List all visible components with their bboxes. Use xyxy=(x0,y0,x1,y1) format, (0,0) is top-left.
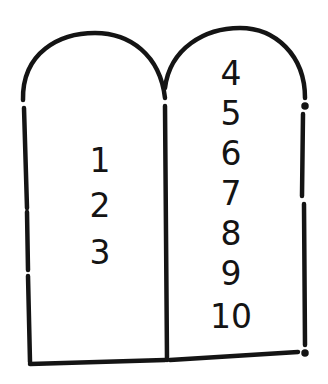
right-number: 4 xyxy=(221,54,242,93)
left-number: 2 xyxy=(90,186,111,225)
left-tablet-arch xyxy=(23,33,165,100)
right-number: 10 xyxy=(210,297,252,336)
right-number: 8 xyxy=(221,214,242,253)
tablets-illustration: 1 2 3 4 5 6 7 8 9 10 xyxy=(0,0,328,384)
right-number: 9 xyxy=(221,254,242,293)
left-number: 1 xyxy=(90,141,111,180)
tablet-divider xyxy=(165,106,167,360)
right-tablet-wall xyxy=(302,114,303,196)
left-tablet-wall xyxy=(24,108,27,208)
tablets-base xyxy=(30,360,165,364)
right-number: 6 xyxy=(221,134,242,173)
right-number: 5 xyxy=(221,94,242,133)
left-number: 3 xyxy=(90,233,111,272)
right-number: 7 xyxy=(221,174,242,213)
